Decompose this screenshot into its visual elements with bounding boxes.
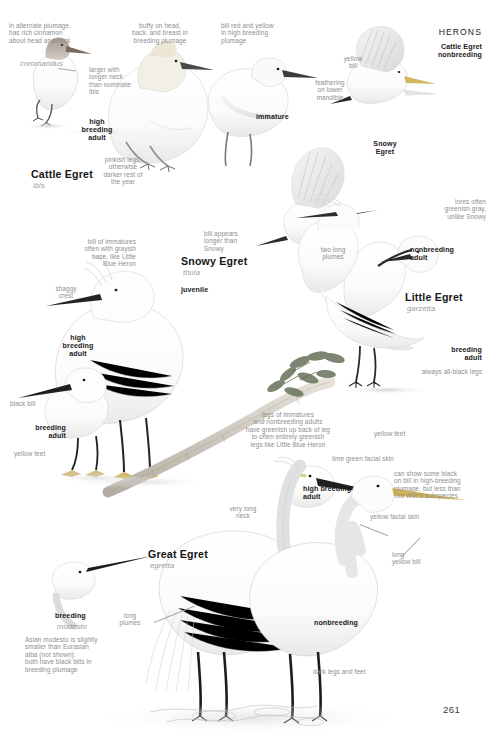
note-pinkish-legs: pinkish legs, otherwise darker rest of t… [90,156,156,186]
note-larger-longer-neck: larger with longer neck than nominate ib… [89,66,151,96]
label-great-egret-nonbreeding: nonbreeding [314,619,358,627]
note-always-all-black-legs: always all-black legs [376,368,482,375]
label-immature: immature [256,113,289,121]
label-cattle-egret-nonbreeding: Cattle Egret nonbreeding [348,43,482,59]
note-bill-of-immatures: bill of immatures often with grayish bas… [48,238,136,268]
note-yellow-feet-right: yellow feet [374,430,405,437]
subspecies-little-egret-garzetta: garzetta [407,305,435,314]
label-snowy-high-breeding-adult-2: high breeding adult [303,485,375,501]
label-great-egret-breeding: breeding [55,612,86,620]
note-long-plumes: long plumes [108,612,152,627]
subspecies-great-egret-egretta: egretta [150,562,174,571]
subspecies-great-egret-modesto: modesto [57,623,87,632]
note-very-long-neck: very long neck [218,505,268,520]
species-name-great-egret: Great Egret [148,548,208,560]
note-can-show-some-black: can show some black on bill in high-bree… [394,470,488,500]
note-two-long-plumes: two long plumes [311,246,355,261]
section-heading-herons: HERONS [348,28,482,38]
label-high-breeding-adult-cattle: high breeding adult [66,118,128,143]
note-lime-green-facial-skin: lime green facial skin [332,455,394,462]
note-long-yellow-bill: long yellow bill [392,551,448,566]
note-bill-appears-longer: bill appears longer than Snowy [204,230,266,252]
note-black-bill: black bill [10,400,36,407]
subspecies-snowy-egret-thula: thula [183,269,200,278]
note-lores-greenish-gray: lores often greenish gray, unlike Snowy [398,198,486,220]
note-yellow-facial-skin: yellow facial skin [370,513,419,520]
species-name-little-egret: Little Egret [405,291,463,303]
note-yellow-feet-left: yellow feet [14,450,45,457]
note-buffy-head: buffy on head, back, and breast in breed… [110,22,210,44]
label-snowy-high-breeding-adult: high breeding adult [49,334,107,359]
note-dark-legs-and-feet: dark legs and feet [313,668,366,675]
label-juvenile: juvenile [181,286,208,294]
note-asian-modesto: Asian modesto is slightly smaller than E… [25,636,127,673]
species-name-snowy-egret: Snowy Egret [181,255,247,267]
note-feathering-lower-mandible: feathering on lower mandible [303,79,357,101]
label-snowy-egret-flight: Snowy Egret [362,140,408,156]
page-number: 261 [443,704,460,715]
note-alternate-plumage: in alternate plumage, has rich cinnamon … [9,22,105,44]
label-little-egret-breeding-adult: breeding adult [404,346,482,362]
field-guide-page: in alternate plumage, has rich cinnamon … [0,0,493,738]
species-name-cattle-egret: Cattle Egret [31,168,93,180]
subspecies-coromandus: coromandus [20,60,63,69]
subspecies-cattle-egret-ibis: ibis [33,182,45,191]
note-legs-of-immatures: legs of immatures and nonbreeding adults… [228,411,348,448]
label-little-egret-nonbreeding-adult: nonbreeding adult [410,246,454,262]
note-shaggy-crest: shaggy crest [44,285,88,300]
label-snowy-breeding-adult: breeding adult [14,424,66,440]
note-bill-red-yellow: bill red and yellow in high breeding plu… [221,22,305,44]
